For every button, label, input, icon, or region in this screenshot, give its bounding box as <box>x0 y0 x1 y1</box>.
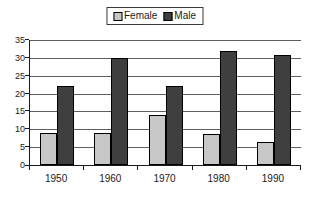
bar-male-1990 <box>274 55 291 165</box>
x-axis-label-1990: 1990 <box>251 173 295 184</box>
legend-label: Male <box>174 11 196 21</box>
y-axis-label: 10 <box>4 124 25 134</box>
bar-female-1950 <box>40 133 57 165</box>
x-axis-label-1980: 1980 <box>197 173 241 184</box>
x-axis-tick <box>137 166 138 170</box>
legend-item-female: Female <box>113 11 157 21</box>
bar-female-1980 <box>203 134 220 165</box>
y-axis-label: 20 <box>4 89 25 99</box>
x-axis-tick <box>29 166 30 170</box>
y-axis-tick <box>25 57 29 58</box>
y-axis-label: 15 <box>4 106 25 116</box>
x-axis-tick <box>246 166 247 170</box>
chart-legend: FemaleMale <box>106 7 203 25</box>
legend-swatch-female <box>113 12 122 21</box>
plot-area <box>29 40 301 166</box>
y-axis-tick <box>25 75 29 76</box>
y-axis-label: 35 <box>4 35 25 45</box>
legend-label: Female <box>124 11 157 21</box>
x-axis-tick <box>83 166 84 170</box>
y-axis-tick <box>25 110 29 111</box>
y-axis-tick <box>25 39 29 40</box>
x-axis-label-1970: 1970 <box>143 173 187 184</box>
gridline-y35 <box>30 40 301 41</box>
legend-swatch-male <box>163 12 172 21</box>
bar-female-1960 <box>94 133 111 165</box>
x-axis-label-1960: 1960 <box>88 173 132 184</box>
gridline-y30 <box>30 58 301 59</box>
y-axis-label: 5 <box>4 142 25 152</box>
x-axis-tick <box>192 166 193 170</box>
y-axis-tick <box>25 128 29 129</box>
bar-male-1950 <box>57 86 74 165</box>
bar-male-1970 <box>166 86 183 165</box>
bar-female-1970 <box>149 115 166 165</box>
bar-female-1990 <box>257 142 274 165</box>
bar-male-1980 <box>220 51 237 165</box>
bar-male-1960 <box>111 58 128 165</box>
legend-item-male: Male <box>163 11 196 21</box>
y-axis-label: 30 <box>4 53 25 63</box>
y-axis-label: 25 <box>4 71 25 81</box>
y-axis-tick <box>25 146 29 147</box>
x-axis-tick <box>300 166 301 170</box>
bar-chart: FemaleMale 05101520253035195019601970198… <box>0 0 309 198</box>
y-axis-tick <box>25 93 29 94</box>
y-axis-label: 0 <box>4 160 25 170</box>
gridline-y25 <box>30 76 301 77</box>
x-axis-label-1950: 1950 <box>34 173 78 184</box>
